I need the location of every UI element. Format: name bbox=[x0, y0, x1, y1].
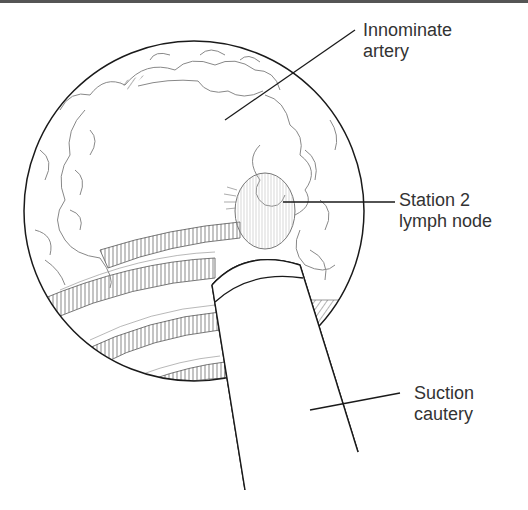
label-innominate-artery: Innominate artery bbox=[363, 20, 452, 62]
label-line: artery bbox=[363, 41, 452, 62]
label-line: cautery bbox=[414, 404, 474, 425]
label-station-2-lymph-node: Station 2 lymph node bbox=[399, 190, 492, 232]
fatty-tissue bbox=[35, 50, 337, 288]
label-suction-cautery: Suction cautery bbox=[414, 383, 474, 425]
thoracoscopic-illustration bbox=[0, 0, 528, 510]
suction-cautery-instrument bbox=[212, 260, 358, 490]
label-line: Station 2 bbox=[399, 190, 492, 211]
label-line: lymph node bbox=[399, 211, 492, 232]
label-line: Suction bbox=[414, 383, 474, 404]
leader-innominate bbox=[225, 30, 355, 120]
label-line: Innominate bbox=[363, 20, 452, 41]
